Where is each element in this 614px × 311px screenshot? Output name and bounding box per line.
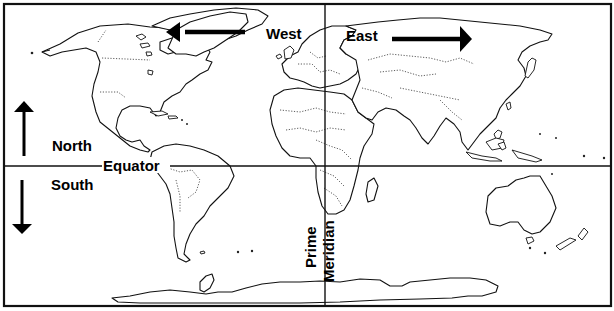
south-label: South xyxy=(51,176,94,193)
equator-label: Equator xyxy=(103,157,160,174)
prime-meridian-label-2: Meridian xyxy=(320,220,337,282)
south-arrow xyxy=(12,180,32,234)
west-label: West xyxy=(266,25,302,42)
world-map: West East North South Equator Prime Meri… xyxy=(0,0,614,311)
prime-meridian-label-line1: Prime xyxy=(302,226,319,268)
north-label: North xyxy=(52,137,92,154)
continent-asia xyxy=(340,18,605,175)
prime-meridian-label: Prime xyxy=(302,226,319,268)
east-label: East xyxy=(346,27,378,44)
continent-australia xyxy=(486,176,588,254)
prime-meridian-label-line2: Meridian xyxy=(320,220,337,282)
north-arrow xyxy=(14,101,34,156)
continent-antarctica xyxy=(112,274,498,303)
